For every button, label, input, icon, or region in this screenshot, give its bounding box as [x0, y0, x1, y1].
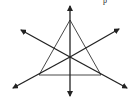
arrow-lower-right [70, 57, 127, 88]
triangle-medians-diagram [0, 0, 135, 104]
cut-off-text-fragment: p [103, 0, 107, 5]
arrow-lower-left [13, 57, 70, 88]
arrow-upper-left [21, 30, 70, 57]
